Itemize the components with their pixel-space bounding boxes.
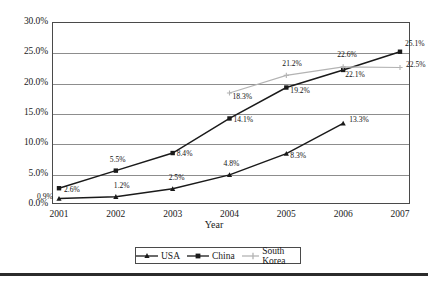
marker-south-korea-2004 bbox=[227, 90, 232, 95]
point-label-china-2003: 8.4% bbox=[177, 150, 193, 158]
marker-china-2005 bbox=[284, 85, 288, 89]
y-axis-tick-2: 10.0% bbox=[2, 138, 48, 148]
legend-item-china[interactable]: China bbox=[187, 251, 235, 261]
marker-china-2007 bbox=[398, 50, 402, 54]
x-axis-tick-2007: 2007 bbox=[374, 209, 426, 219]
y-axis-tick-1: 5.0% bbox=[2, 169, 48, 179]
point-label-china-2005: 19.2% bbox=[290, 87, 310, 95]
point-label-china-2001: 2.6% bbox=[64, 186, 80, 194]
y-axis-tick-6: 30.0% bbox=[2, 17, 48, 27]
point-label-china-2004: 14.1% bbox=[234, 116, 254, 124]
point-label-china-2006: 22.1% bbox=[345, 71, 365, 79]
marker-china-2001 bbox=[57, 186, 61, 190]
marker-south-korea-2007 bbox=[397, 65, 402, 70]
y-axis-tick-4: 20.0% bbox=[2, 78, 48, 88]
bottom-divider bbox=[0, 273, 428, 276]
line-usa bbox=[59, 123, 343, 198]
y-axis-tick-5: 25.0% bbox=[2, 47, 48, 57]
chart-plot-region: 0.0%5.0%10.0%15.0%20.0%25.0%30.0% 0.9%1.… bbox=[0, 0, 428, 250]
marker-china-2002 bbox=[114, 168, 118, 172]
chart-figure: 0.0%5.0%10.0%15.0%20.0%25.0%30.0% 0.9%1.… bbox=[0, 0, 428, 282]
legend-label-china: China bbox=[212, 251, 235, 261]
legend-item-usa[interactable]: USA bbox=[136, 251, 180, 261]
marker-china-2003 bbox=[170, 151, 174, 155]
point-label-usa-2003: 2.5% bbox=[169, 174, 185, 182]
point-label-china-2002: 5.5% bbox=[110, 156, 126, 164]
legend-marker-south-korea-icon bbox=[242, 251, 259, 261]
x-axis-tick-2006: 2006 bbox=[317, 209, 369, 219]
marker-china-2004 bbox=[227, 116, 231, 120]
y-axis-tick-3: 15.0% bbox=[2, 108, 48, 118]
x-axis-tick-2003: 2003 bbox=[147, 209, 199, 219]
legend-item-south-korea[interactable]: South Korea bbox=[242, 246, 300, 266]
x-axis-tick-2004: 2004 bbox=[204, 209, 256, 219]
point-label-south-korea-2006: 22.6% bbox=[337, 51, 357, 59]
x-axis-tick-2005: 2005 bbox=[260, 209, 312, 219]
point-label-usa-2005: 8.3% bbox=[290, 152, 306, 160]
point-label-usa-2002: 1.2% bbox=[114, 182, 130, 190]
point-label-usa-2004: 4.8% bbox=[224, 160, 240, 168]
point-label-south-korea-2007: 22.5% bbox=[406, 61, 426, 69]
legend-label-usa: USA bbox=[161, 251, 180, 261]
marker-usa-2006 bbox=[341, 121, 346, 126]
chart-legend: USA China South Korea bbox=[135, 247, 301, 264]
point-label-south-korea-2004: 18.3% bbox=[233, 93, 253, 101]
legend-label-south-korea: South Korea bbox=[262, 246, 300, 266]
x-axis-tick-2002: 2002 bbox=[90, 209, 142, 219]
marker-south-korea-2005 bbox=[284, 73, 289, 78]
x-axis-title: Year bbox=[0, 219, 428, 230]
point-label-usa-2001: 0.9% bbox=[37, 193, 53, 201]
legend-marker-usa-icon bbox=[136, 251, 158, 261]
point-label-china-2007: 25.1% bbox=[405, 40, 425, 48]
line-south-korea bbox=[230, 67, 401, 93]
point-label-south-korea-2005: 21.2% bbox=[282, 60, 302, 68]
point-label-usa-2006: 13.3% bbox=[349, 116, 369, 124]
x-axis-tick-2001: 2001 bbox=[33, 209, 85, 219]
legend-marker-china-icon bbox=[187, 251, 209, 261]
